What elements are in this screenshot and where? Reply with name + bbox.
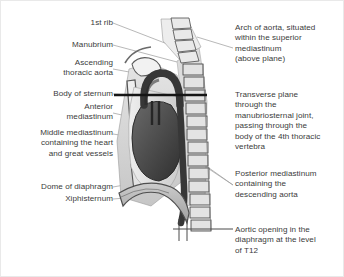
label-manubrium: Manubrium [9, 40, 113, 50]
label-xiphisternum: Xiphisternum [5, 194, 113, 204]
anatomical-figure: 1st rib Manubrium Ascending thoracic aor… [0, 0, 344, 277]
label-transverse-plane: Transverse plane through the manubrioste… [235, 90, 343, 152]
label-posterior-mediastinum: Posterior mediastinum containing the des… [235, 169, 343, 200]
label-body-of-sternum: Body of sternum [5, 89, 113, 99]
label-anterior-mediastinum: Anterior mediastinum [7, 102, 113, 123]
label-first-rib: 1st rib [9, 18, 113, 28]
heart [132, 101, 182, 181]
label-aortic-opening: Aortic opening in the diaphragm at the l… [235, 225, 343, 256]
label-ascending-thoracic-aorta: Ascending thoracic aorta [9, 58, 113, 79]
label-middle-mediastinum: Middle mediastinum containing the heart … [3, 128, 113, 159]
label-arch-of-aorta: Arch of aorta, situated within the super… [235, 23, 343, 65]
label-dome-of-diaphragm: Dome of diaphragm [5, 182, 113, 192]
